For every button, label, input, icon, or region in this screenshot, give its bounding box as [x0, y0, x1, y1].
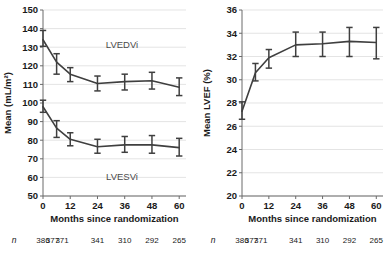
x-tick-label: 12: [263, 200, 274, 211]
x-tick-label: 60: [370, 200, 381, 211]
x-tick-label: 48: [344, 200, 355, 211]
y-tick-label: 60: [27, 172, 38, 183]
y-tick-label: 130: [22, 42, 38, 53]
y-tick-label: 26: [226, 121, 237, 132]
y-tick-label: 90: [27, 116, 38, 127]
y-tick-label: 34: [226, 28, 237, 39]
y-tick-label: 50: [27, 190, 38, 201]
figure-container: 506070809010011012013014015001224364860M…: [0, 0, 389, 254]
y-tick-label: 140: [22, 23, 38, 34]
y-tick-label: 24: [226, 144, 237, 155]
y-tick-label: 22: [226, 167, 237, 178]
y-tick-label: 70: [27, 153, 38, 164]
x-tick-label: 36: [119, 200, 130, 211]
series-line: [242, 41, 376, 111]
n-value: 371: [55, 236, 69, 245]
n-value: 341: [91, 236, 105, 245]
y-tick-label: 20: [226, 190, 237, 201]
y-tick-label: 120: [22, 60, 38, 71]
x-tick-label: 0: [239, 200, 244, 211]
series-annotation: LVESVi: [106, 171, 138, 182]
x-tick-label: 12: [65, 200, 76, 211]
y-axis-title: Mean (mL/m²): [2, 72, 13, 134]
y-tick-label: 28: [226, 97, 237, 108]
y-tick-label: 36: [226, 4, 237, 15]
n-value: 265: [173, 236, 187, 245]
series-line: [43, 107, 179, 148]
y-tick-label: 80: [27, 135, 38, 146]
right-chart-svg: 20222426283032343601224364860Months sinc…: [195, 0, 389, 254]
left-chart-svg: 506070809010011012013014015001224364860M…: [0, 0, 195, 254]
y-tick-label: 150: [22, 4, 38, 15]
ejection-fraction-panel: 20222426283032343601224364860Months sinc…: [195, 0, 389, 254]
n-value: 341: [289, 236, 303, 245]
x-tick-label: 24: [92, 200, 103, 211]
x-axis-title: Months since randomization: [50, 213, 178, 224]
y-tick-label: 100: [22, 97, 38, 108]
n-value: 310: [118, 236, 132, 245]
n-row-symbol: n: [12, 235, 17, 245]
n-value: 265: [369, 236, 383, 245]
ventricular-volume-panel: 506070809010011012013014015001224364860M…: [0, 0, 195, 254]
n-value: 292: [145, 236, 159, 245]
x-axis-title: Months since randomization: [248, 213, 376, 224]
y-axis-title: Mean LVEF (%): [201, 69, 212, 137]
n-row-symbol: n: [210, 235, 215, 245]
x-tick-label: 48: [147, 200, 158, 211]
series-annotation: LVEDVi: [106, 39, 138, 50]
y-tick-label: 110: [23, 79, 38, 90]
x-tick-label: 60: [174, 200, 185, 211]
y-tick-label: 30: [226, 74, 237, 85]
n-value: 371: [254, 236, 268, 245]
n-value: 310: [315, 236, 329, 245]
n-value: 292: [342, 236, 356, 245]
x-tick-label: 0: [40, 200, 45, 211]
x-tick-label: 36: [317, 200, 328, 211]
x-tick-label: 24: [290, 200, 301, 211]
y-tick-label: 32: [226, 51, 237, 62]
